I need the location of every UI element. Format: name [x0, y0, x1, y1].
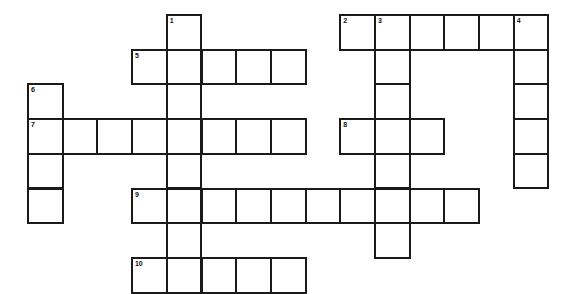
cell-number: 3 [378, 17, 382, 25]
crossword-cell[interactable] [201, 49, 238, 86]
crossword-cell[interactable] [374, 188, 411, 225]
crossword-cell[interactable]: 8 [339, 118, 376, 155]
crossword-cell[interactable]: 10 [131, 257, 168, 294]
cell-number: 8 [343, 121, 347, 129]
crossword-cell[interactable]: 9 [131, 188, 168, 225]
crossword-cell[interactable] [96, 118, 133, 155]
crossword-cell[interactable] [305, 188, 342, 225]
cell-number: 10 [135, 260, 142, 268]
crossword-cell[interactable] [374, 118, 411, 155]
cell-number: 9 [135, 191, 139, 199]
crossword-cell[interactable] [374, 222, 411, 259]
crossword-cell[interactable]: 6 [27, 83, 64, 120]
crossword-cell[interactable] [166, 153, 203, 190]
crossword-cell[interactable] [166, 83, 203, 120]
crossword-cell[interactable] [27, 153, 64, 190]
crossword-cell[interactable] [409, 14, 446, 51]
crossword-cell[interactable] [27, 188, 64, 225]
crossword-cell[interactable] [513, 153, 550, 190]
crossword-cell[interactable]: 7 [27, 118, 64, 155]
crossword-cell[interactable]: 1 [166, 14, 203, 51]
crossword-cell[interactable]: 4 [513, 14, 550, 51]
crossword-cell[interactable] [235, 188, 272, 225]
crossword-cell[interactable] [374, 153, 411, 190]
crossword-cell[interactable]: 3 [374, 14, 411, 51]
cell-number: 2 [343, 17, 347, 25]
crossword-cell[interactable] [131, 118, 168, 155]
crossword-cell[interactable] [513, 49, 550, 86]
crossword-cell[interactable] [409, 188, 446, 225]
crossword-cell[interactable] [201, 257, 238, 294]
crossword-cell[interactable] [409, 118, 446, 155]
crossword-cell[interactable]: 5 [131, 49, 168, 86]
crossword-cell[interactable] [374, 83, 411, 120]
crossword-cell[interactable] [235, 49, 272, 86]
crossword-cell[interactable] [270, 118, 307, 155]
cell-number: 7 [31, 121, 35, 129]
crossword-cell[interactable] [166, 257, 203, 294]
crossword-cell[interactable] [235, 118, 272, 155]
crossword-cell[interactable] [513, 118, 550, 155]
crossword-cell[interactable] [270, 49, 307, 86]
crossword-cell[interactable] [270, 257, 307, 294]
crossword-cell[interactable] [235, 257, 272, 294]
crossword-cell[interactable] [62, 118, 99, 155]
cell-number: 4 [517, 17, 521, 25]
crossword-cell[interactable] [339, 188, 376, 225]
cell-number: 5 [135, 52, 139, 60]
crossword-cell[interactable] [443, 14, 480, 51]
crossword-cell[interactable]: 2 [339, 14, 376, 51]
crossword-cell[interactable] [201, 188, 238, 225]
crossword-cell[interactable] [478, 14, 515, 51]
crossword-cell[interactable] [166, 49, 203, 86]
crossword-cell[interactable] [166, 222, 203, 259]
crossword-cell[interactable] [166, 118, 203, 155]
crossword-cell[interactable] [201, 118, 238, 155]
crossword-cell[interactable] [443, 188, 480, 225]
crossword-cell[interactable] [270, 188, 307, 225]
crossword-cell[interactable] [374, 49, 411, 86]
crossword-cell[interactable] [513, 83, 550, 120]
cell-number: 6 [31, 86, 35, 94]
crossword-cell[interactable] [166, 188, 203, 225]
cell-number: 1 [170, 17, 174, 25]
